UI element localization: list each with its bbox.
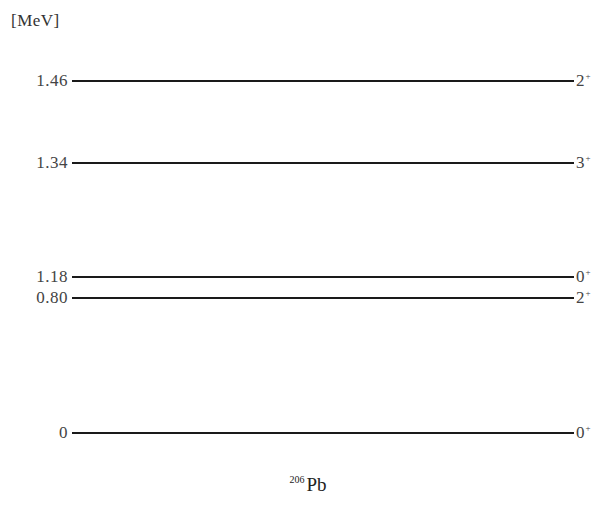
element-symbol: Pb (306, 474, 326, 495)
level-line (72, 276, 574, 278)
level-line (72, 432, 574, 434)
energy-value: 1.34 (36, 153, 68, 173)
energy-value: 1.46 (36, 71, 68, 91)
mass-number: 206 (289, 474, 304, 485)
nucleus-label: 206Pb (0, 474, 616, 496)
unit-label: [MeV] (11, 11, 60, 31)
spin-parity-label: 3+ (576, 153, 591, 173)
level-line (72, 80, 574, 82)
energy-value: 0 (59, 423, 68, 443)
spin-parity-label: 2+ (576, 288, 591, 308)
spin-parity-label: 2+ (576, 71, 591, 91)
level-line (72, 297, 574, 299)
level-line (72, 162, 574, 164)
spin-parity-label: 0+ (576, 267, 591, 287)
energy-value: 1.18 (36, 267, 68, 287)
energy-value: 0.80 (36, 288, 68, 308)
spin-parity-label: 0+ (576, 423, 591, 443)
